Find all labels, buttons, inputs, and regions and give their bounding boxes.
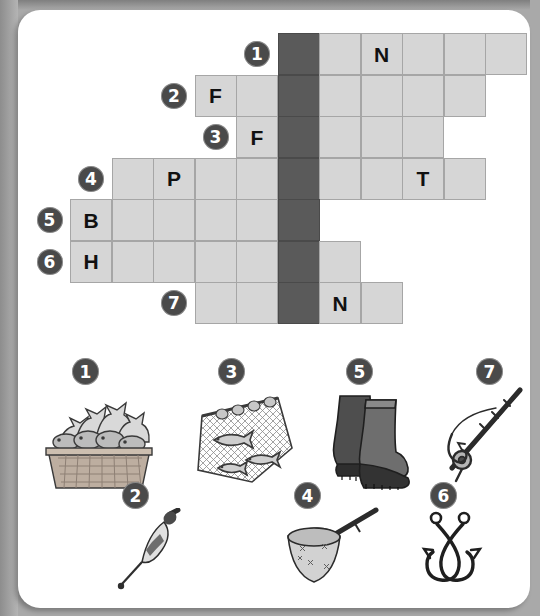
grid-cell-r4-c9[interactable] [444,158,486,200]
grid-cell-r3-c5 [278,116,320,158]
clue-badge-row-1: 1 [244,41,270,67]
grid-cell-r2-c9[interactable] [444,75,486,117]
grid-cell-r5-c1[interactable] [112,199,154,241]
clue-badge-row-2: 2 [161,83,187,109]
clue-badge-pic-5: 5 [346,358,373,385]
grid-cell-r4-c2[interactable]: P [153,158,195,200]
grid-cell-r2-c3[interactable]: F [195,75,237,117]
clue-badge-row-4: 4 [78,166,104,192]
cell-letter: B [83,210,98,231]
grid-cell-r1-c6[interactable] [319,33,361,75]
crossword-grid[interactable]: N1F2F3PT4B5H6N7 [18,10,530,340]
grid-cell-r5-c5 [278,199,320,241]
picture-clue-7[interactable]: 7 [432,360,532,490]
grid-cell-r7-c6[interactable]: N [319,282,361,324]
grid-cell-r7-c3[interactable] [195,282,237,324]
grid-cell-r4-c1[interactable] [112,158,154,200]
grid-cell-r4-c4[interactable] [236,158,278,200]
cell-letter: N [332,293,347,314]
picture-clue-3[interactable]: 3 [176,360,304,490]
clue-badge-row-5: 5 [37,207,63,233]
grid-cell-r4-c3[interactable] [195,158,237,200]
picture-clue-6[interactable]: 6 [396,482,506,600]
grid-cell-r4-c8[interactable]: T [402,158,444,200]
grid-cell-r2-c7[interactable] [361,75,403,117]
clue-badge-pic-2: 2 [122,482,149,509]
grid-cell-r7-c5 [278,282,320,324]
grid-cell-r5-c2[interactable] [153,199,195,241]
cell-letter: H [83,251,98,272]
grid-cell-r2-c6[interactable] [319,75,361,117]
grid-cell-r1-c9[interactable] [444,33,486,75]
landing-net-icon [258,506,380,598]
picture-clue-4[interactable]: 4 [252,482,382,600]
grid-cell-r3-c4[interactable]: F [236,116,278,158]
clue-badge-pic-1: 1 [72,358,99,385]
grid-cell-r3-c7[interactable] [361,116,403,158]
grid-cell-r6-c0[interactable]: H [70,241,112,283]
grid-cell-r2-c4[interactable] [236,75,278,117]
picture-clue-2[interactable]: 2 [100,482,200,597]
grid-cell-r5-c4[interactable] [236,199,278,241]
grid-cell-r4-c5 [278,158,320,200]
clue-badge-pic-7: 7 [476,358,503,385]
grid-cell-r6-c2[interactable] [153,241,195,283]
grid-cell-r7-c7[interactable] [361,282,403,324]
grid-cell-r6-c4[interactable] [236,241,278,283]
grid-cell-r1-c10[interactable] [485,33,527,75]
fishing-float-icon [112,508,194,594]
keep-net-with-fish-icon [182,386,304,490]
grid-cell-r4-c7[interactable] [361,158,403,200]
basket-of-fish-icon [40,388,158,490]
cell-letter: P [167,168,181,189]
grid-cell-r4-c6[interactable] [319,158,361,200]
cell-letter: N [374,44,389,65]
grid-cell-r6-c3[interactable] [195,241,237,283]
grid-cell-r1-c8[interactable] [402,33,444,75]
cell-letter: T [417,168,430,189]
clue-badge-row-7: 7 [161,290,187,316]
cell-letter: F [251,127,264,148]
fish-hooks-icon [406,508,498,594]
clue-badge-row-6: 6 [37,249,63,275]
grid-cell-r3-c6[interactable] [319,116,361,158]
clue-badge-pic-3: 3 [218,358,245,385]
grid-cell-r2-c5 [278,75,320,117]
worksheet-card: N1F2F3PT4B5H6N7 1 [18,10,530,608]
grid-cell-r2-c8[interactable] [402,75,444,117]
grid-cell-r5-c0[interactable]: B [70,199,112,241]
rubber-boots-icon [322,388,418,490]
grid-cell-r1-c7[interactable]: N [361,33,403,75]
grid-cell-r6-c1[interactable] [112,241,154,283]
grid-cell-r6-c6[interactable] [319,241,361,283]
grid-cell-r5-c3[interactable] [195,199,237,241]
page-top-edge [18,0,530,10]
picture-clue-5[interactable]: 5 [314,360,424,490]
picture-clue-gallery: 1 [18,342,530,608]
picture-clue-1[interactable]: 1 [38,360,158,490]
grid-cell-r7-c4[interactable] [236,282,278,324]
grid-cell-r1-c5 [278,33,320,75]
clue-badge-row-3: 3 [203,124,229,150]
page-left-edge [0,0,18,616]
cell-letter: F [209,85,222,106]
grid-cell-r6-c5 [278,241,320,283]
grid-cell-r3-c8[interactable] [402,116,444,158]
fishing-rod-icon [434,386,530,490]
